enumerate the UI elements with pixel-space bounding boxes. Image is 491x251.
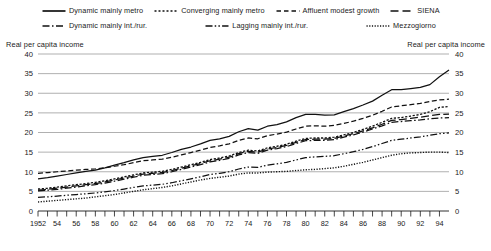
- legend-row-2: Dynamic mainly int./rur.Lagging mainly i…: [42, 19, 452, 33]
- x-tick-label: 74: [244, 219, 252, 228]
- y-tick-label-right: 0: [455, 207, 459, 216]
- x-tick-label: 68: [187, 219, 195, 228]
- x-tick-label: 72: [225, 219, 233, 228]
- x-tick-label: 78: [282, 219, 290, 228]
- series-line-converging-mainly-metro: [38, 107, 449, 189]
- legend-line-swatch: [276, 7, 300, 15]
- x-tick-label: 62: [130, 219, 138, 228]
- legend-line-swatch: [205, 22, 229, 30]
- legend-item-mezzogiorno[interactable]: Mezzogiorno: [366, 22, 436, 30]
- y-tick-label-right: 10: [455, 168, 463, 177]
- y-tick-label-left: 30: [25, 89, 33, 98]
- x-tick-label: 90: [397, 219, 405, 228]
- legend-line-swatch: [154, 7, 178, 15]
- legend-line-swatch: [42, 22, 66, 30]
- x-tick-label: 76: [263, 219, 271, 228]
- x-tick-label: 64: [149, 219, 157, 228]
- x-tick-label: 60: [110, 219, 118, 228]
- y-tick-label-left: 15: [25, 148, 33, 157]
- y-tick-label-right: 35: [455, 69, 463, 78]
- legend-item-converging-mainly-metro[interactable]: Converging mainly metro: [154, 7, 264, 15]
- series-line-affluent-modest-growth: [38, 99, 449, 173]
- chart-legend: Dynamic mainly metroConverging mainly me…: [42, 4, 452, 34]
- x-tick-label: 54: [53, 219, 61, 228]
- x-tick-label: 94: [435, 219, 443, 228]
- y-tick-label-left: 10: [25, 168, 33, 177]
- x-tick-label: 86: [359, 219, 367, 228]
- y-tick-label-left: 25: [25, 109, 33, 118]
- x-tick-label: 70: [206, 219, 214, 228]
- series-line-lagging-mainly-int-rur: [38, 133, 449, 197]
- x-tick-label: 56: [72, 219, 80, 228]
- line-chart-svg: 0055101015152020252530303535404019525456…: [0, 48, 491, 251]
- legend-label: Converging mainly metro: [181, 7, 264, 14]
- legend-item-dynamic-mainly-int-rur[interactable]: Dynamic mainly int./rur.: [42, 22, 147, 30]
- series-line-dynamic-mainly-metro: [38, 70, 449, 179]
- y-tick-label-right: 15: [455, 148, 463, 157]
- legend-item-dynamic-mainly-metro[interactable]: Dynamic mainly metro: [42, 7, 143, 15]
- y-tick-label-right: 40: [455, 50, 463, 59]
- x-tick-label: 1952: [30, 219, 46, 228]
- x-tick-label: 84: [340, 219, 348, 228]
- x-tick-label: 66: [168, 219, 176, 228]
- y-tick-label-right: 25: [455, 109, 463, 118]
- x-tick-label: 88: [378, 219, 386, 228]
- x-tick-label: 82: [321, 219, 329, 228]
- legend-label: SIENA: [417, 7, 439, 14]
- legend-line-swatch: [366, 22, 390, 30]
- legend-item-lagging-mainly-int-rur[interactable]: Lagging mainly int./rur.: [205, 22, 308, 30]
- y-tick-label-left: 5: [29, 187, 33, 196]
- legend-row-1: Dynamic mainly metroConverging mainly me…: [42, 4, 452, 18]
- y-tick-label-right: 5: [455, 187, 459, 196]
- series-line-dynamic-mainly-int-rur: [38, 118, 449, 191]
- legend-line-swatch: [42, 7, 66, 15]
- chart-container: Dynamic mainly metroConverging mainly me…: [0, 0, 491, 251]
- legend-line-swatch: [390, 7, 414, 15]
- x-tick-label: 92: [416, 219, 424, 228]
- plot-area: 0055101015152020252530303535404019525456…: [0, 48, 491, 251]
- y-tick-label-right: 20: [455, 128, 463, 137]
- legend-item-affluent-modest-growth[interactable]: Affluent modest growth: [276, 7, 380, 15]
- legend-item-siena[interactable]: SIENA: [390, 7, 439, 15]
- y-tick-label-right: 30: [455, 89, 463, 98]
- legend-label: Mezzogiorno: [393, 22, 436, 29]
- x-tick-label: 58: [91, 219, 99, 228]
- y-tick-label-left: 40: [25, 50, 33, 59]
- legend-label: Lagging mainly int./rur.: [232, 22, 308, 29]
- y-tick-label-left: 0: [29, 207, 33, 216]
- x-tick-label: 80: [302, 219, 310, 228]
- legend-label: Dynamic mainly int./rur.: [69, 22, 147, 29]
- y-tick-label-left: 20: [25, 128, 33, 137]
- legend-label: Dynamic mainly metro: [69, 7, 143, 14]
- series-line-mezzogiorno: [38, 152, 449, 202]
- legend-label: Affluent modest growth: [303, 7, 380, 14]
- y-tick-label-left: 35: [25, 69, 33, 78]
